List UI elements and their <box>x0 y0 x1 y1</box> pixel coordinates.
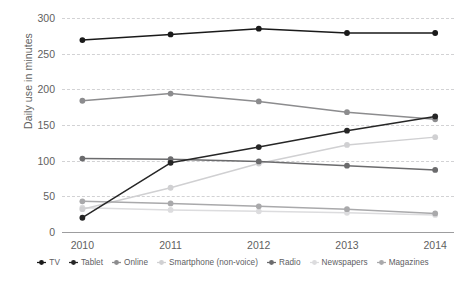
legend-label: Online <box>124 258 148 267</box>
data-point <box>79 206 85 212</box>
legend: TVTabletOnlineSmartphone (non-voice)Radi… <box>0 258 466 267</box>
data-point <box>256 144 262 150</box>
data-point <box>256 208 262 214</box>
series-line <box>82 94 435 120</box>
data-point <box>344 109 350 115</box>
legend-label: Radio <box>279 258 301 267</box>
data-point <box>168 201 174 207</box>
y-axis-tick-label: 150 <box>37 119 55 131</box>
legend-label: Smartphone (non-voice) <box>169 258 258 267</box>
legend-item-tablet[interactable]: Tablet <box>69 258 103 267</box>
data-point <box>344 30 350 36</box>
x-axis-tick-label: 2013 <box>335 239 358 251</box>
data-point <box>79 156 85 162</box>
data-point <box>168 32 174 38</box>
y-axis-tick-label: 0 <box>49 226 55 238</box>
legend-label: Tablet <box>81 258 103 267</box>
series-radio <box>79 156 438 173</box>
data-point <box>168 207 174 213</box>
data-point <box>168 185 174 191</box>
data-point <box>256 158 262 164</box>
x-axis-line <box>62 232 454 233</box>
data-point <box>432 167 438 173</box>
y-axis-tick-label: 250 <box>37 48 55 60</box>
data-point <box>168 91 174 97</box>
legend-marker-icon <box>157 258 166 267</box>
data-point <box>79 37 85 43</box>
data-point <box>79 198 85 204</box>
legend-item-newspapers[interactable]: Newspapers <box>310 258 368 267</box>
x-axis-tick-label: 2012 <box>247 239 270 251</box>
plot-area: 050100150200250300 20102011201220132014 <box>62 18 454 232</box>
data-point <box>79 98 85 104</box>
data-point <box>168 160 174 166</box>
legend-label: Magazines <box>389 258 429 267</box>
data-point <box>256 203 262 209</box>
data-point <box>79 215 85 221</box>
series-layer <box>62 18 454 232</box>
legend-marker-icon <box>377 258 386 267</box>
data-point <box>256 26 262 32</box>
line-chart: Daily use in minutes 050100150200250300 … <box>0 0 466 283</box>
legend-marker-icon <box>37 258 46 267</box>
legend-item-tv[interactable]: TV <box>37 258 60 267</box>
x-axis-tick-label: 2014 <box>423 239 446 251</box>
data-point <box>432 211 438 217</box>
legend-marker-icon <box>267 258 276 267</box>
data-point <box>432 30 438 36</box>
y-axis-tick-label: 300 <box>37 12 55 24</box>
data-point <box>344 163 350 169</box>
series-online <box>79 91 438 122</box>
y-axis-tick-label: 200 <box>37 83 55 95</box>
y-axis-title: Daily use in minutes <box>22 1 34 161</box>
legend-item-magazines[interactable]: Magazines <box>377 258 429 267</box>
y-axis-tick-label: 100 <box>37 155 55 167</box>
legend-marker-icon <box>69 258 78 267</box>
x-axis-tick-label: 2011 <box>159 239 182 251</box>
legend-item-radio[interactable]: Radio <box>267 258 301 267</box>
x-axis-tick-label: 2010 <box>71 239 94 251</box>
data-point <box>344 128 350 134</box>
data-point <box>432 114 438 120</box>
legend-marker-icon <box>112 258 121 267</box>
y-axis-tick-label: 50 <box>43 190 55 202</box>
series-tv <box>79 26 438 43</box>
data-point <box>344 142 350 148</box>
data-point <box>432 134 438 140</box>
data-point <box>256 99 262 105</box>
legend-label: TV <box>49 258 60 267</box>
legend-label: Newspapers <box>322 258 368 267</box>
legend-marker-icon <box>310 258 319 267</box>
legend-item-smartphone-non-voice[interactable]: Smartphone (non-voice) <box>157 258 258 267</box>
data-point <box>344 206 350 212</box>
legend-item-online[interactable]: Online <box>112 258 148 267</box>
